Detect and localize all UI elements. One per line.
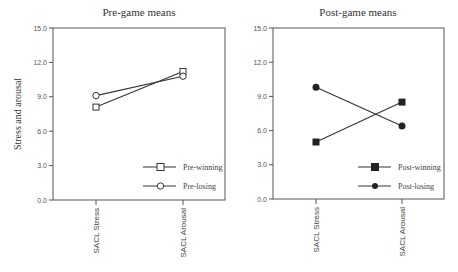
- open-circle-icon: [157, 183, 163, 189]
- y-tick-label: 6.0: [257, 127, 267, 134]
- plot-frame: [273, 28, 444, 199]
- y-tick-label: 9.0: [257, 93, 267, 100]
- plot-frame: [53, 28, 225, 200]
- open-circle-marker: [93, 92, 99, 98]
- x-category-label: SACL Arousal: [398, 207, 407, 257]
- chart-pre-game: Pre-game means Stress and arousal 0.0 3.…: [12, 6, 225, 258]
- legend-label: Pre-winning: [183, 163, 223, 172]
- open-circle-marker: [180, 73, 186, 79]
- series-pre-winning: [93, 69, 186, 111]
- legend-label: Pre-losing: [183, 182, 216, 191]
- y-tick-label: 3.0: [37, 162, 47, 169]
- chart-post-game: Post-game means 0.0 3.0 6.0 9.0 12.0 15.…: [253, 6, 444, 257]
- filled-circle-marker: [313, 84, 320, 91]
- filled-square-marker: [313, 139, 320, 146]
- y-axis: 0.0 3.0 6.0 9.0 12.0 15.0: [253, 25, 273, 203]
- legend: Pre-winning Pre-losing: [143, 163, 223, 191]
- open-square-icon: [157, 164, 164, 171]
- y-tick-label: 15.0: [33, 25, 47, 32]
- series-pre-losing: [93, 73, 186, 99]
- legend: Post-winning Post-losing: [358, 163, 441, 191]
- open-square-marker: [93, 104, 99, 110]
- y-tick-label: 9.0: [37, 93, 47, 100]
- y-axis: 0.0 3.0 6.0 9.0 12.0 15.0: [33, 25, 53, 204]
- y-tick-label: 12.0: [253, 59, 267, 66]
- y-tick-label: 0.0: [37, 197, 47, 204]
- y-tick-label: 12.0: [33, 59, 47, 66]
- y-tick-label: 0.0: [257, 196, 267, 203]
- x-category-label: SACL Stress: [312, 207, 321, 253]
- chart-title: Pre-game means: [103, 6, 176, 18]
- y-tick-label: 3.0: [257, 161, 267, 168]
- x-axis: SACL Stress SACL Arousal: [92, 200, 188, 258]
- legend-label: Post-losing: [398, 182, 434, 191]
- x-category-label: SACL Stress: [92, 208, 101, 254]
- filled-square-marker: [399, 99, 406, 106]
- x-axis: SACL Stress SACL Arousal: [312, 199, 407, 257]
- filled-circle-marker: [399, 123, 406, 130]
- y-axis-label: Stress and arousal: [12, 78, 23, 150]
- figure: Pre-game means Stress and arousal 0.0 3.…: [0, 0, 458, 272]
- y-tick-label: 6.0: [37, 128, 47, 135]
- y-tick-label: 15.0: [253, 25, 267, 32]
- chart-title: Post-game means: [319, 6, 396, 18]
- filled-circle-icon: [372, 183, 378, 189]
- x-category-label: SACL Arousal: [179, 208, 188, 258]
- legend-label: Post-winning: [398, 163, 441, 172]
- filled-square-icon: [371, 163, 379, 171]
- series-post-winning: [313, 99, 406, 146]
